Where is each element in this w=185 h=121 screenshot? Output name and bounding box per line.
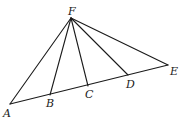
- point-label-B: B: [45, 97, 54, 110]
- point-label-E: E: [169, 65, 178, 78]
- point-label-F: F: [67, 5, 76, 18]
- triangle-diagram: F A B C D E: [0, 0, 185, 121]
- segment-FB: [50, 18, 71, 95]
- point-label-C: C: [85, 88, 94, 101]
- point-label-D: D: [125, 78, 135, 91]
- segment-FD: [71, 18, 128, 75]
- segment-FE: [71, 18, 168, 65]
- segment-FC: [71, 18, 88, 86]
- point-label-A: A: [2, 107, 11, 120]
